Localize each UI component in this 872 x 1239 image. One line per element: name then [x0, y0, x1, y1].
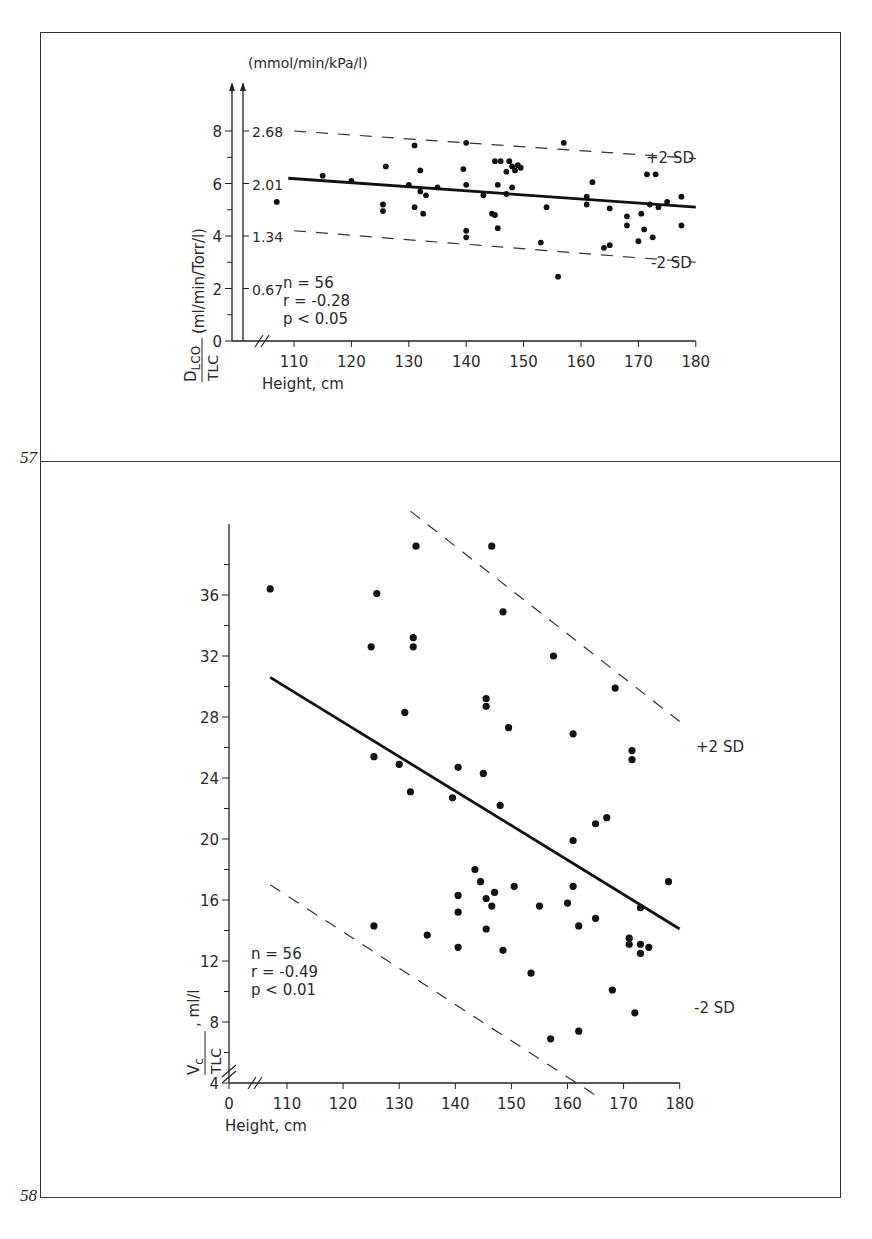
x-axis-label: Height, cm	[225, 1117, 307, 1135]
data-point	[536, 903, 543, 910]
data-point	[483, 895, 490, 902]
y-tick-label: 32	[200, 648, 219, 666]
data-point	[527, 970, 534, 977]
data-point	[592, 915, 599, 922]
data-point	[455, 944, 462, 951]
data-point	[370, 753, 377, 760]
data-point	[401, 709, 408, 716]
y-axis-label: VcTLC, ml/l	[185, 989, 224, 1075]
x-tick-label: 180	[665, 1095, 694, 1113]
data-point	[665, 878, 672, 885]
data-point	[267, 585, 274, 592]
data-point	[499, 608, 506, 615]
data-point	[637, 941, 644, 948]
data-point	[449, 794, 456, 801]
y-tick-label: 28	[200, 709, 219, 727]
data-point	[410, 643, 417, 650]
data-point	[477, 878, 484, 885]
data-point	[407, 788, 414, 795]
data-point	[645, 944, 652, 951]
data-point	[570, 883, 577, 890]
data-point	[570, 730, 577, 737]
y-tick-label: 12	[200, 953, 219, 971]
data-point	[424, 931, 431, 938]
data-point	[480, 770, 487, 777]
y-tick-label: 16	[200, 892, 219, 910]
data-point	[626, 941, 633, 948]
x-tick-label: 120	[329, 1095, 358, 1113]
data-point	[612, 684, 619, 691]
data-point	[550, 652, 557, 659]
x-tick-label: 130	[385, 1095, 414, 1113]
x-tick-label: 150	[497, 1095, 526, 1113]
y-tick-label: 4	[209, 1075, 219, 1093]
data-point	[483, 925, 490, 932]
y-label-numerator: Vc	[185, 1058, 206, 1075]
data-point	[637, 904, 644, 911]
data-point	[483, 695, 490, 702]
data-point	[455, 764, 462, 771]
data-point	[637, 950, 644, 957]
x-tick-label: 110	[273, 1095, 302, 1113]
y-tick-label: 36	[200, 587, 219, 605]
data-point	[628, 756, 635, 763]
data-point	[396, 761, 403, 768]
data-point	[368, 643, 375, 650]
data-point	[511, 883, 518, 890]
y-label-denominator: TLC	[208, 1048, 224, 1075]
chart-vc-vs-height: 4812162024283236110120130140150160170180…	[0, 0, 872, 1239]
data-point	[497, 802, 504, 809]
y-label-units: , ml/l	[185, 989, 203, 1027]
data-point	[570, 837, 577, 844]
y-tick-label: 24	[200, 770, 219, 788]
data-point	[609, 986, 616, 993]
data-point	[628, 747, 635, 754]
x-tick-label: 160	[553, 1095, 582, 1113]
data-point	[575, 1028, 582, 1035]
data-point	[564, 899, 571, 906]
data-point	[455, 909, 462, 916]
x-tick-label: 0	[224, 1095, 234, 1113]
data-point	[505, 724, 512, 731]
data-point	[491, 889, 498, 896]
data-point	[592, 820, 599, 827]
data-point	[410, 634, 417, 641]
regression-line	[270, 677, 680, 929]
data-point	[488, 903, 495, 910]
sd-band-line	[270, 885, 595, 1095]
y-tick-label: 20	[200, 831, 219, 849]
minus-2sd-label: -2 SD	[694, 999, 735, 1017]
data-point	[373, 590, 380, 597]
plus-2sd-label: +2 SD	[696, 738, 744, 756]
stat-r: r = -0.49	[251, 963, 318, 981]
data-point	[547, 1035, 554, 1042]
x-tick-label: 140	[441, 1095, 470, 1113]
y-tick-label: 8	[209, 1014, 219, 1032]
data-point	[499, 947, 506, 954]
data-point	[412, 543, 419, 550]
stat-n: n = 56	[251, 945, 302, 963]
data-point	[575, 922, 582, 929]
data-point	[370, 922, 377, 929]
stat-p: p < 0.01	[251, 981, 316, 999]
data-point	[631, 1009, 638, 1016]
data-point	[455, 892, 462, 899]
data-point	[488, 543, 495, 550]
data-point	[483, 703, 490, 710]
x-tick-label: 170	[609, 1095, 638, 1113]
data-point	[471, 866, 478, 873]
sd-band-line	[410, 511, 679, 721]
data-point	[603, 814, 610, 821]
